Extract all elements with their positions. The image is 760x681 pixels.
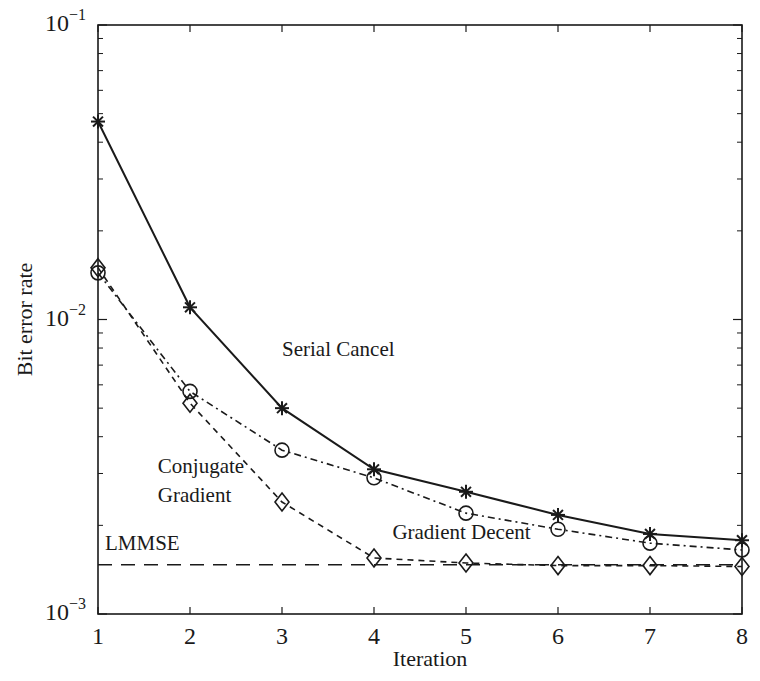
ber-vs-iteration-chart: 1234567810−110−210−3IterationBit error r… bbox=[0, 0, 760, 681]
y-tick-label: 10−3 bbox=[45, 595, 86, 625]
x-tick-label: 1 bbox=[92, 623, 104, 649]
annotation-gradient: Gradient bbox=[158, 483, 232, 507]
annotations: Serial CancelConjugateGradientGradient D… bbox=[105, 337, 531, 555]
x-axis-title: Iteration bbox=[393, 646, 468, 671]
x-tick-label: 8 bbox=[736, 623, 748, 649]
x-tick-label: 3 bbox=[276, 623, 288, 649]
annotation-gradient-decent: Gradient Decent bbox=[392, 520, 530, 544]
annotation-lmmse: LMMSE bbox=[105, 531, 180, 555]
x-tick-label: 4 bbox=[368, 623, 380, 649]
y-tick-label: 10−2 bbox=[45, 301, 86, 331]
x-tick-label: 6 bbox=[552, 623, 564, 649]
x-tick-label: 7 bbox=[644, 623, 656, 649]
x-tick-label: 2 bbox=[184, 623, 196, 649]
y-axis-title: Bit error rate bbox=[12, 263, 37, 377]
annotation-serial-cancel: Serial Cancel bbox=[282, 337, 395, 361]
y-tick-label: 10−1 bbox=[45, 6, 86, 36]
annotation-conjugate: Conjugate bbox=[158, 454, 244, 478]
series-line bbox=[98, 273, 742, 550]
